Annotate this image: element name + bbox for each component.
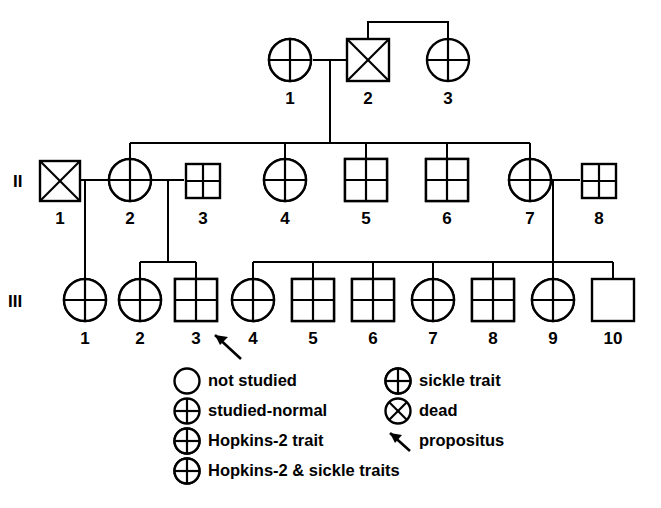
individual-id-label: 1 <box>55 209 64 228</box>
individual-id-label: 4 <box>280 209 290 228</box>
individual-II-1[interactable]: 1 <box>40 161 80 228</box>
individual-II-5[interactable]: 5 <box>345 159 387 228</box>
individual-III-10[interactable]: 10 <box>592 279 634 348</box>
individual-I-3[interactable]: 3 <box>427 39 469 108</box>
legend-label: propositus <box>419 431 504 449</box>
individual-III-2[interactable]: 2 <box>119 279 161 348</box>
individual-II-4[interactable]: 4 <box>264 159 306 228</box>
individual-III-5[interactable]: 5 <box>292 279 334 348</box>
individual-id-label: 7 <box>428 329 437 348</box>
arrow-icon <box>390 433 410 451</box>
legend-item-sickle-trait: sickle trait <box>386 369 502 395</box>
individual-III-8[interactable]: 8 <box>472 279 514 348</box>
individual-III-6[interactable]: 6 <box>352 279 394 348</box>
individual-III-1[interactable]: 1 <box>64 279 106 348</box>
individual-id-label: 2 <box>125 209 134 228</box>
individual-I-1[interactable]: 1 <box>269 39 311 108</box>
individual-id-label: 3 <box>191 329 200 348</box>
individual-II-2[interactable]: 2 <box>109 159 151 228</box>
legend-label: Hopkins-2 & sickle traits <box>208 461 400 479</box>
legend-item-propositus: propositus <box>390 431 504 451</box>
individual-id-label: 7 <box>525 209 534 228</box>
individual-id-label: 1 <box>80 329 89 348</box>
pedigree-chart: 1 2 3 II <box>0 0 661 508</box>
individual-III-7[interactable]: 7 <box>412 279 454 348</box>
propositus-arrow-icon <box>215 335 241 359</box>
individual-id-label: 10 <box>604 329 623 348</box>
individual-id-label: 5 <box>361 209 370 228</box>
individual-id-label: 1 <box>285 89 294 108</box>
individual-id-label: 4 <box>248 329 258 348</box>
individual-id-label: 9 <box>548 329 557 348</box>
generation-III: III 1 <box>8 279 634 359</box>
generation-label-II: II <box>13 172 22 191</box>
square-symbol <box>592 279 634 321</box>
individual-II-8[interactable]: 8 <box>582 164 616 228</box>
generation-label-III: III <box>8 292 22 311</box>
legend: not studied sickle trait studied-normal <box>174 369 504 485</box>
legend-label: dead <box>419 401 458 419</box>
individual-id-label: 6 <box>368 329 377 348</box>
circle-empty-icon <box>175 369 200 394</box>
legend-label: studied-normal <box>208 401 327 419</box>
legend-label: sickle trait <box>419 371 501 389</box>
individual-id-label: 5 <box>308 329 317 348</box>
individual-id-label: 6 <box>442 209 451 228</box>
legend-label: not studied <box>208 371 297 389</box>
individual-III-9[interactable]: 9 <box>532 279 574 348</box>
legend-item-dead: dead <box>386 399 458 424</box>
legend-item-hopkins2-and-sickle: Hopkins-2 & sickle traits <box>174 458 400 484</box>
legend-item-hopkins2-trait: Hopkins-2 trait <box>174 428 324 454</box>
individual-id-label: 8 <box>594 209 603 228</box>
union-line-I2-I3 <box>368 22 448 39</box>
individual-id-label: 8 <box>488 329 497 348</box>
individual-id-label: 3 <box>443 89 452 108</box>
individual-id-label: 2 <box>135 329 144 348</box>
individual-id-label: 3 <box>198 209 207 228</box>
pedigree-canvas: 1 2 3 II <box>0 0 661 508</box>
generation-I: 1 2 3 <box>269 39 469 108</box>
individual-I-2[interactable]: 2 <box>347 39 389 108</box>
legend-label: Hopkins-2 trait <box>208 431 324 449</box>
individual-II-6[interactable]: 6 <box>426 159 468 228</box>
legend-item-not-studied: not studied <box>175 369 297 394</box>
individual-III-4[interactable]: 4 <box>232 279 274 348</box>
individual-III-3[interactable]: 3 <box>175 279 217 348</box>
legend-item-studied-normal: studied-normal <box>175 399 328 424</box>
individual-id-label: 2 <box>363 89 372 108</box>
individual-II-7[interactable]: 7 <box>509 159 551 228</box>
generation-II: II 1 2 <box>13 159 616 228</box>
individual-II-3[interactable]: 3 <box>186 164 220 228</box>
